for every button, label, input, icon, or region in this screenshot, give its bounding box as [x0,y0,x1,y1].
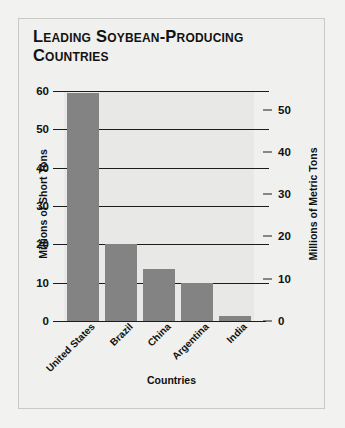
y-axis-tick-left: 10 [36,277,49,289]
y-axis-tick-mark-right [263,236,272,237]
y-axis-tick-right: 50 [278,104,291,116]
chart-title: Leading Soybean-Producing Countries [33,27,305,65]
y-axis-tick-right: 10 [278,273,291,285]
y-axis-tick-left: 50 [36,123,49,135]
y-axis-tick-mark-right [263,109,272,110]
gridline [53,91,269,92]
y-axis-tick-mark-right [263,194,272,195]
y-axis-tick-mark-right [263,321,272,322]
y-axis-label-right: Millions of Metric Tons [307,148,319,261]
x-axis-tick-label: Brazil [108,321,135,348]
x-axis-line [53,321,266,322]
x-axis-tick-label: India [224,321,248,345]
y-axis-tick-mark-right [263,278,272,279]
x-axis-tick-label: Argentina [170,321,211,362]
y-axis-tick-left: 0 [43,315,49,327]
x-axis-label: Countries [19,374,324,386]
y-axis-tick-right: 0 [278,315,284,327]
y-axis-label-left: Millions of Short Tons [37,149,49,258]
bar [67,93,99,321]
x-axis-tick-label: China [145,321,172,348]
y-axis-tick-mark-right [263,151,272,152]
plot-area: 010203040506001020304050United StatesBra… [64,91,254,321]
bar [105,244,137,321]
bar [181,283,213,321]
x-axis-tick-label: United States [44,321,97,374]
y-axis-tick-right: 40 [278,146,291,158]
bar [143,269,175,321]
y-axis-tick-right: 30 [278,188,291,200]
chart-figure: Leading Soybean-Producing Countries 0102… [18,18,325,409]
y-axis-tick-right: 20 [278,230,291,242]
y-axis-tick-left: 60 [36,85,49,97]
bar [219,316,251,321]
